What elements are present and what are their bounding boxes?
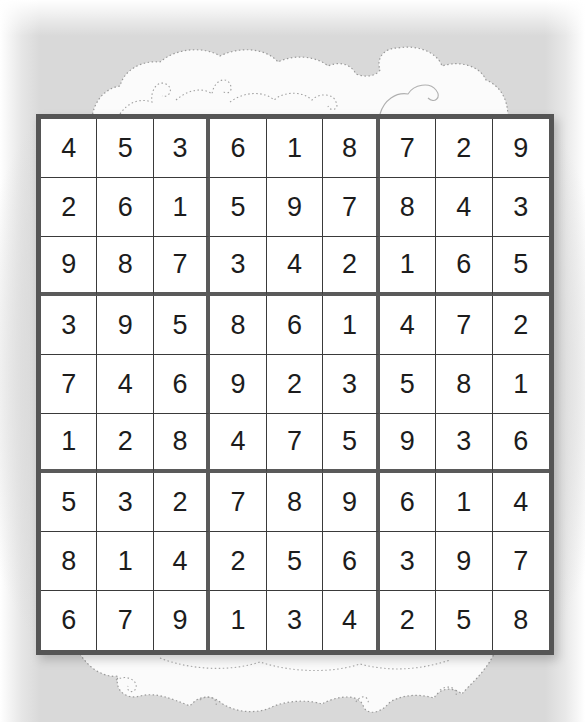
sudoku-cell-r2c6[interactable]: 7 [323,178,379,237]
sudoku-cell-r4c8[interactable]: 7 [436,296,492,355]
sudoku-cell-r1c7[interactable]: 7 [380,119,436,178]
sudoku-cell-r7c6[interactable]: 9 [323,473,379,532]
sudoku-cell-r8c1[interactable]: 8 [41,532,97,591]
sudoku-cell-r4c2[interactable]: 9 [97,296,153,355]
sudoku-cell-r5c1[interactable]: 7 [41,355,97,414]
sudoku-cell-r3c4[interactable]: 3 [210,237,266,296]
sudoku-cell-r7c4[interactable]: 7 [210,473,266,532]
sudoku-cell-r5c9[interactable]: 1 [493,355,549,414]
sudoku-cell-r6c3[interactable]: 8 [154,414,210,473]
sudoku-cell-r4c5[interactable]: 6 [267,296,323,355]
sudoku-cell-r4c6[interactable]: 1 [323,296,379,355]
cloud-icon [60,650,540,722]
sudoku-cell-r2c7[interactable]: 8 [380,178,436,237]
bottom-cloud-decoration [60,650,540,722]
sudoku-cell-r5c8[interactable]: 8 [436,355,492,414]
sudoku-cell-r9c1[interactable]: 6 [41,591,97,650]
sudoku-cell-r2c3[interactable]: 1 [154,178,210,237]
top-cloud-decoration [80,40,520,120]
sudoku-cell-r5c5[interactable]: 2 [267,355,323,414]
sudoku-cell-r7c2[interactable]: 3 [97,473,153,532]
sudoku-cell-r9c3[interactable]: 9 [154,591,210,650]
sudoku-cell-r7c3[interactable]: 2 [154,473,210,532]
sudoku-cell-r8c6[interactable]: 6 [323,532,379,591]
sudoku-cell-r7c9[interactable]: 4 [493,473,549,532]
sudoku-cell-r3c9[interactable]: 5 [493,237,549,296]
sudoku-cell-r8c7[interactable]: 3 [380,532,436,591]
sudoku-cell-r8c4[interactable]: 2 [210,532,266,591]
sudoku-cell-r9c7[interactable]: 2 [380,591,436,650]
sudoku-cell-r5c6[interactable]: 3 [323,355,379,414]
sudoku-cell-r6c6[interactable]: 5 [323,414,379,473]
sudoku-cell-r8c3[interactable]: 4 [154,532,210,591]
sudoku-cell-r6c4[interactable]: 4 [210,414,266,473]
sudoku-cell-r4c3[interactable]: 5 [154,296,210,355]
sudoku-cell-r7c1[interactable]: 5 [41,473,97,532]
sudoku-cell-r2c8[interactable]: 4 [436,178,492,237]
sudoku-cell-r7c8[interactable]: 1 [436,473,492,532]
sudoku-cell-r5c7[interactable]: 5 [380,355,436,414]
sudoku-cell-r2c2[interactable]: 6 [97,178,153,237]
sudoku-cell-r3c5[interactable]: 4 [267,237,323,296]
sudoku-cell-r4c1[interactable]: 3 [41,296,97,355]
sudoku-cell-r4c7[interactable]: 4 [380,296,436,355]
sudoku-cell-r1c6[interactable]: 8 [323,119,379,178]
sudoku-cell-r6c9[interactable]: 6 [493,414,549,473]
sudoku-cell-r9c5[interactable]: 3 [267,591,323,650]
sudoku-cell-r9c4[interactable]: 1 [210,591,266,650]
sudoku-cell-r1c5[interactable]: 1 [267,119,323,178]
sudoku-cell-r9c6[interactable]: 4 [323,591,379,650]
sudoku-cell-r3c1[interactable]: 9 [41,237,97,296]
sudoku-cell-r6c2[interactable]: 2 [97,414,153,473]
cloud-icon [80,40,520,120]
sudoku-cell-r6c7[interactable]: 9 [380,414,436,473]
sudoku-cell-r2c1[interactable]: 2 [41,178,97,237]
sudoku-cell-r5c4[interactable]: 9 [210,355,266,414]
sudoku-cell-r2c4[interactable]: 5 [210,178,266,237]
sudoku-cell-r1c2[interactable]: 5 [97,119,153,178]
sudoku-cell-r3c8[interactable]: 6 [436,237,492,296]
sudoku-cell-r8c2[interactable]: 1 [97,532,153,591]
sudoku-cell-r9c2[interactable]: 7 [97,591,153,650]
sudoku-cell-r9c8[interactable]: 5 [436,591,492,650]
sudoku-cell-r3c3[interactable]: 7 [154,237,210,296]
sudoku-cell-r6c1[interactable]: 1 [41,414,97,473]
sudoku-cell-r1c9[interactable]: 9 [493,119,549,178]
sudoku-cell-r8c9[interactable]: 7 [493,532,549,591]
sudoku-cell-r7c5[interactable]: 8 [267,473,323,532]
sudoku-cell-r6c5[interactable]: 7 [267,414,323,473]
sudoku-cell-r5c3[interactable]: 6 [154,355,210,414]
sudoku-cell-r8c5[interactable]: 5 [267,532,323,591]
sudoku-cell-r8c8[interactable]: 9 [436,532,492,591]
sudoku-cell-r1c8[interactable]: 2 [436,119,492,178]
sudoku-cell-r6c8[interactable]: 3 [436,414,492,473]
sudoku-cell-r7c7[interactable]: 6 [380,473,436,532]
sudoku-cell-r5c2[interactable]: 4 [97,355,153,414]
sudoku-cell-r3c6[interactable]: 2 [323,237,379,296]
sudoku-cell-r4c9[interactable]: 2 [493,296,549,355]
sudoku-cell-r9c9[interactable]: 8 [493,591,549,650]
sudoku-cell-r3c2[interactable]: 8 [97,237,153,296]
sudoku-cell-r4c4[interactable]: 8 [210,296,266,355]
sudoku-cell-r1c3[interactable]: 3 [154,119,210,178]
sudoku-cell-r1c1[interactable]: 4 [41,119,97,178]
sudoku-cell-r1c4[interactable]: 6 [210,119,266,178]
sudoku-cell-r2c9[interactable]: 3 [493,178,549,237]
sudoku-cell-r2c5[interactable]: 9 [267,178,323,237]
sudoku-cell-r3c7[interactable]: 1 [380,237,436,296]
sudoku-grid: 4 5 3 6 1 8 7 2 9 2 6 1 5 9 7 8 4 3 9 8 … [36,114,554,655]
